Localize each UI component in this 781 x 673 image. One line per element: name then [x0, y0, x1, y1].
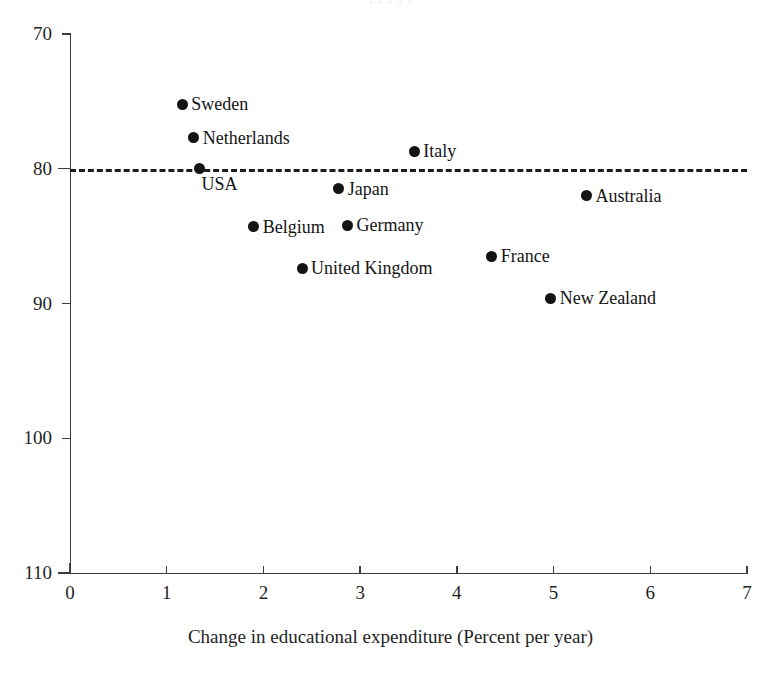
x-tick-label-5: 5	[539, 583, 569, 602]
data-point-marker[interactable]	[581, 190, 592, 201]
x-tick-label-7: 7	[732, 583, 762, 602]
y-tick-80	[62, 438, 71, 439]
data-point-marker[interactable]	[409, 146, 420, 157]
x-tick-label-2: 2	[248, 583, 278, 602]
x-tick-3	[359, 566, 360, 574]
data-point-marker[interactable]	[545, 293, 556, 304]
y-tick-90	[62, 303, 71, 304]
data-point-label: Australia	[595, 187, 661, 205]
data-point-marker[interactable]	[333, 183, 344, 194]
x-tick-1	[166, 566, 167, 574]
data-point-label: Netherlands	[203, 129, 290, 147]
plot-area: 110100908070 01234567 SwedenNetherlandsU…	[0, 0, 781, 673]
scatter-chart: · · · · · 110100908070 01234567 SwedenNe…	[0, 0, 781, 673]
data-point-marker[interactable]	[342, 220, 353, 231]
data-point-marker[interactable]	[188, 132, 199, 143]
x-axis-line	[70, 573, 747, 574]
x-tick-6	[650, 566, 651, 574]
y-tick-label-110: 70	[0, 24, 52, 43]
data-point-label: Japan	[348, 180, 389, 198]
y-tick-label-100: 80	[0, 159, 52, 178]
data-point-marker[interactable]	[194, 163, 205, 174]
x-tick-label-4: 4	[442, 583, 472, 602]
reference-line	[70, 169, 747, 172]
data-point-label: Germany	[357, 216, 424, 234]
data-point-label: Italy	[423, 142, 456, 160]
x-tick-label-0: 0	[55, 583, 85, 602]
x-tick-label-6: 6	[635, 583, 665, 602]
y-tick-label-80: 100	[0, 428, 52, 447]
x-tick-4	[456, 566, 457, 574]
x-tick-2	[263, 566, 264, 574]
data-point-label: Sweden	[191, 95, 248, 113]
y-tick-label-70: 110	[0, 563, 52, 582]
y-tick-110	[62, 33, 71, 34]
y-tick-label-90: 90	[0, 294, 52, 313]
data-point-marker[interactable]	[297, 263, 308, 274]
data-point-label: New Zealand	[560, 289, 656, 307]
data-point-marker[interactable]	[486, 251, 497, 262]
data-point-label: USA	[202, 175, 238, 193]
x-tick-7	[746, 566, 747, 574]
x-tick-label-1: 1	[152, 583, 182, 602]
data-point-marker[interactable]	[177, 99, 188, 110]
x-tick-0	[69, 563, 70, 574]
data-point-marker[interactable]	[248, 221, 259, 232]
data-point-label: Belgium	[263, 218, 325, 236]
x-tick-5	[553, 566, 554, 574]
data-point-label: France	[501, 247, 550, 265]
x-axis-title: Change in educational expenditure (Perce…	[0, 626, 781, 648]
x-tick-label-3: 3	[345, 583, 375, 602]
data-point-label: United Kingdom	[311, 259, 433, 277]
